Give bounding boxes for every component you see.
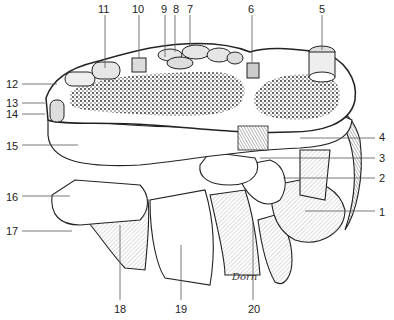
label-4: 4	[379, 132, 385, 143]
label-3: 3	[379, 153, 385, 164]
label-11: 11	[98, 4, 109, 15]
label-7: 7	[187, 4, 193, 15]
label-17: 17	[6, 226, 18, 237]
label-1: 1	[379, 207, 385, 218]
leader-lines	[0, 0, 394, 320]
label-6: 6	[248, 4, 254, 15]
label-20: 20	[248, 304, 260, 315]
artist-signature: Dorn	[232, 271, 257, 282]
label-15: 15	[6, 141, 18, 152]
label-18: 18	[114, 304, 126, 315]
label-12: 12	[6, 79, 18, 90]
label-2: 2	[379, 173, 385, 184]
label-5: 5	[319, 4, 325, 15]
anatomical-figure: 1234567891011121314151617181920 Dorn	[0, 0, 394, 320]
label-14: 14	[6, 109, 18, 120]
label-19: 19	[175, 304, 187, 315]
label-10: 10	[132, 4, 144, 15]
label-16: 16	[6, 192, 18, 203]
label-8: 8	[173, 4, 179, 15]
label-9: 9	[161, 4, 167, 15]
